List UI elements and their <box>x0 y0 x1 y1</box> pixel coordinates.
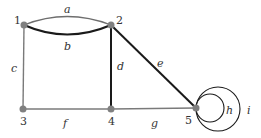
node-label-2: 2 <box>116 14 123 27</box>
edge-label-g: g <box>151 117 158 130</box>
edge-label-f: f <box>62 117 69 130</box>
edge-label-e: e <box>157 57 164 70</box>
edge-label-i: i <box>247 104 251 117</box>
node-3 <box>20 106 27 113</box>
edge-g <box>111 108 196 109</box>
node-label-3: 3 <box>20 115 27 128</box>
node-label-4: 4 <box>108 115 115 128</box>
edge-c <box>23 25 24 109</box>
node-4 <box>108 106 115 113</box>
edge-i-loop <box>196 87 240 131</box>
edge-label-h: h <box>226 104 233 117</box>
node-label-1: 1 <box>14 14 21 27</box>
node-1 <box>21 22 28 29</box>
edge-label-a: a <box>64 3 71 16</box>
edge-b <box>24 25 111 35</box>
edge-label-c: c <box>11 62 17 75</box>
graph-diagram: 1 2 3 4 5 a b c d e f g h i <box>0 0 261 138</box>
edge-label-d: d <box>117 60 124 73</box>
edge-label-b: b <box>64 40 71 53</box>
edge-h-loop <box>196 94 224 122</box>
node-2 <box>108 22 115 29</box>
node-5 <box>193 105 200 112</box>
node-label-5: 5 <box>185 114 192 127</box>
edge-a <box>24 17 111 26</box>
